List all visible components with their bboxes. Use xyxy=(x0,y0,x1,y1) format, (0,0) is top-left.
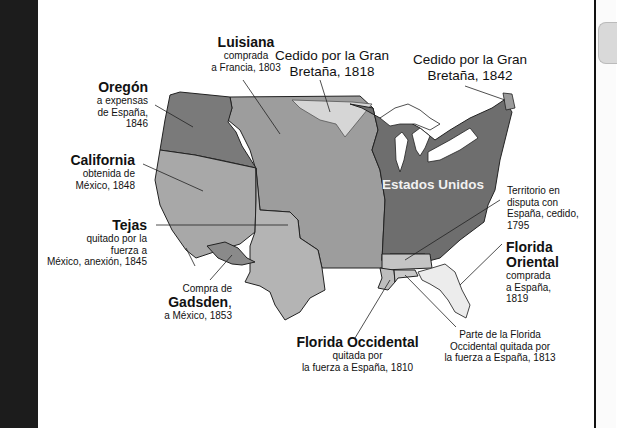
region-florida-occidental xyxy=(378,268,395,290)
label-line: a expensas xyxy=(60,95,148,107)
label-line: comprada xyxy=(506,270,596,282)
label-title: California xyxy=(50,153,135,168)
label-tejas: Tejas quitado por la fuerza a México, an… xyxy=(30,218,147,268)
region-territorio-disputa xyxy=(382,254,432,270)
label-line: la fuerza a España, 1813 xyxy=(440,352,560,364)
label-line: Cedido por la Gran xyxy=(262,48,402,64)
label-line: obtenida de xyxy=(50,168,135,180)
label-title: Gadsden xyxy=(168,294,228,310)
label-florida-occidental: Florida Occidental quitada por la fuerza… xyxy=(290,335,425,373)
label-gadsden: Compra de Gadsden, a México, 1853 xyxy=(150,283,232,321)
label-line: Bretaña, 1818 xyxy=(262,64,402,80)
label-california: California obtenida de México, 1848 xyxy=(50,153,135,191)
label-line: 1819 xyxy=(506,293,596,305)
label-line: quitado por la xyxy=(30,233,147,245)
label-title: Florida Occidental xyxy=(290,335,425,350)
label-cedido-1818: Cedido por la Gran Bretaña, 1818 xyxy=(262,48,402,80)
label-oregon: Oregón a expensas de España, 1846 xyxy=(60,80,148,130)
region-california xyxy=(155,150,256,258)
label-line: México, 1848 xyxy=(50,180,135,192)
label-line: quitada por xyxy=(290,350,425,362)
region-florida-oriental xyxy=(418,264,470,318)
label-line: fuerza a xyxy=(30,245,147,257)
label-line: 1795 xyxy=(507,220,597,232)
label-line: de España, xyxy=(60,107,148,119)
label-line: disputa con xyxy=(507,197,597,209)
label-florida-oriental: Florida Oriental comprada a España, 1819 xyxy=(506,240,596,305)
label-line: Territorio en xyxy=(507,185,597,197)
label-line: Occidental quitada por xyxy=(440,341,560,353)
right-panel-tab[interactable] xyxy=(598,22,617,64)
label-line: a España, xyxy=(506,282,596,294)
label-line: Bretaña, 1842 xyxy=(400,68,540,84)
label-title: Tejas xyxy=(30,218,147,233)
label-title: Oregón xyxy=(60,80,148,95)
label-line: España, cedido, xyxy=(507,208,597,220)
label-line: 1846 xyxy=(60,118,148,130)
label-line: México, anexión, 1845 xyxy=(30,256,147,268)
label-title: Oriental xyxy=(506,255,596,270)
label-cedido-1842: Cedido por la Gran Bretaña, 1842 xyxy=(400,52,540,84)
label-territorio-disputa: Territorio en disputa con España, cedido… xyxy=(507,185,597,231)
right-panel xyxy=(596,0,616,428)
label-florida-occidental-1813: Parte de la Florida Occidental quitada p… xyxy=(440,329,560,364)
label-title: Florida xyxy=(506,240,596,255)
label-line: Cedido por la Gran xyxy=(400,52,540,68)
label-line: Parte de la Florida xyxy=(440,329,560,341)
label-estados-unidos: Estados Unidos xyxy=(382,177,484,192)
region-gadsden xyxy=(207,242,255,265)
label-line: a México, 1853 xyxy=(150,310,232,322)
label-line: la fuerza a España, 1810 xyxy=(290,362,425,374)
